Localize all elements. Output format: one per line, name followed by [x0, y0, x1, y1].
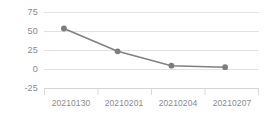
data-point-1[interactable] [115, 48, 121, 54]
y-axis-tick-label-0: 0 [8, 64, 38, 74]
y-axis-tick-label-75: 75 [8, 7, 38, 17]
y-axis-tick-label-50: 50 [8, 26, 38, 36]
x-axis-tick-label-1: 20210201 [97, 98, 151, 108]
x-axis-tick-label-2: 20210204 [151, 98, 205, 108]
x-axis-ticks [45, 89, 259, 96]
data-point-3[interactable] [222, 64, 228, 70]
data-point-0[interactable] [61, 26, 67, 32]
y-axis-tick-label-minus25: -25 [8, 83, 38, 93]
data-point-2[interactable] [169, 63, 175, 69]
data-series-line [64, 29, 225, 68]
y-axis-tick-label-25: 25 [8, 45, 38, 55]
data-point-markers [61, 26, 228, 71]
x-axis-tick-label-3: 20210207 [205, 98, 259, 108]
line-chart: 75 50 25 0 -25 20210130 20210201 2021020… [0, 0, 267, 118]
x-axis-tick-label-0: 20210130 [44, 98, 98, 108]
